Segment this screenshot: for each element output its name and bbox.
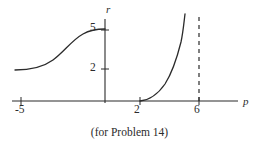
plot-canvas (0, 0, 259, 147)
y-axis-label: r (106, 4, 110, 15)
y-tick-label-5: 5 (90, 22, 96, 34)
figure-caption: (for Problem 14) (0, 126, 259, 139)
x-axis-label: p (243, 96, 249, 107)
y-tick-label-2: 2 (90, 62, 96, 74)
x-tick-label-neg5: -5 (15, 104, 25, 116)
x-tick-label-6: 6 (194, 104, 200, 116)
curve-right-branch (140, 14, 185, 101)
x-tick-label-2: 2 (134, 104, 140, 116)
figure-problem-14: r p 5 2 -5 2 6 (for Problem 14) (0, 0, 259, 147)
